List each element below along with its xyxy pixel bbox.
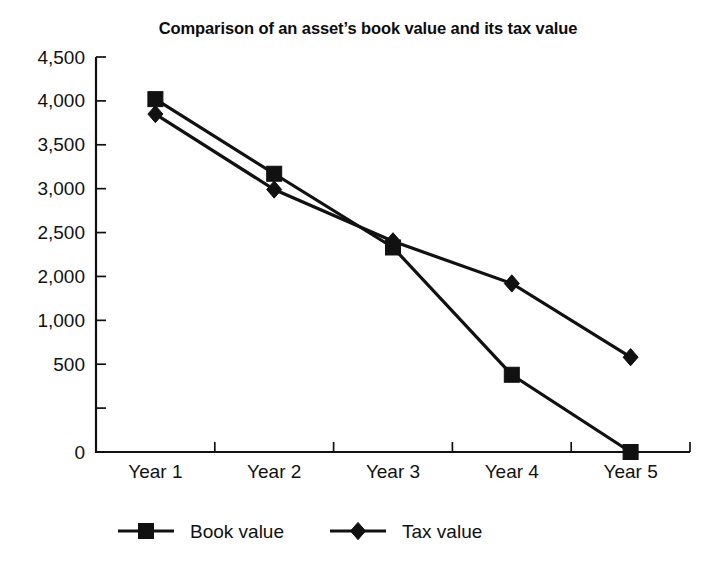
legend-label: Book value <box>190 521 284 542</box>
x-tick-label: Year 3 <box>366 461 420 482</box>
x-axis-ticks: Year 1Year 2Year 3Year 4Year 5 <box>128 442 690 482</box>
x-tick-label: Year 4 <box>485 461 540 482</box>
y-tick-label: 1,000 <box>37 310 85 331</box>
series-tax-value <box>148 105 638 365</box>
legend-item-book-value: Book value <box>118 521 284 542</box>
diamond-marker <box>148 105 163 122</box>
chart-legend: Book valueTax value <box>118 521 482 542</box>
y-tick-label: 0 <box>74 442 85 463</box>
diamond-marker <box>504 275 519 292</box>
diamond-marker <box>623 349 638 366</box>
square-marker <box>139 524 154 539</box>
y-tick-label: 3,000 <box>37 178 85 199</box>
x-tick-label: Year 2 <box>247 461 301 482</box>
y-tick-label: 3,500 <box>37 134 85 155</box>
chart-svg: 4,5004,0003,5003,0002,5002,0001,0005000 … <box>0 0 710 572</box>
y-tick-label: 4,000 <box>37 90 85 111</box>
x-tick-label: Year 5 <box>603 461 657 482</box>
square-marker <box>148 92 163 107</box>
y-tick-label: 4,500 <box>37 47 85 68</box>
diamond-marker <box>351 522 366 539</box>
series-book-value <box>148 92 638 460</box>
diamond-marker <box>267 181 282 198</box>
square-marker <box>267 166 282 181</box>
square-marker <box>623 445 638 460</box>
chart-container: Comparison of an asset’s book value and … <box>0 0 710 572</box>
legend-item-tax-value: Tax value <box>330 521 482 542</box>
y-tick-label: 2,000 <box>37 266 85 287</box>
y-tick-label: 2,500 <box>37 222 85 243</box>
x-tick-label: Year 1 <box>128 461 182 482</box>
y-tick-label: 500 <box>53 354 85 375</box>
series-path <box>155 99 630 452</box>
series-layer <box>148 92 638 460</box>
legend-label: Tax value <box>402 521 482 542</box>
square-marker <box>504 367 519 382</box>
